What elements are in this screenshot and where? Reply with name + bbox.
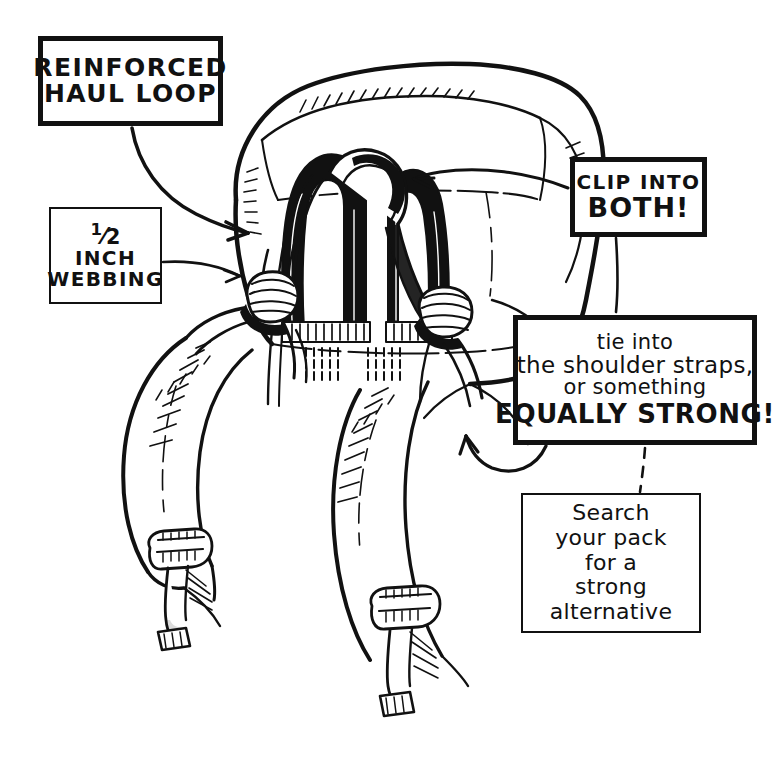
callout-half-inch-webbing: 1⁄2 INCH WEBBING xyxy=(49,207,162,304)
webbing-arrow xyxy=(163,262,240,282)
callout-line: Search xyxy=(572,501,649,526)
dashed-link xyxy=(640,448,645,492)
callout-line-emphasis: BOTH! xyxy=(588,194,690,222)
callout-line: HAUL LOOP xyxy=(44,81,217,107)
callout-line: or something xyxy=(564,377,707,399)
callout-line: INCH xyxy=(75,248,136,269)
callout-line: REINFORCED xyxy=(33,55,227,81)
callout-line: WEBBING xyxy=(47,269,164,290)
callout-line-fraction: 1⁄2 xyxy=(91,221,121,249)
callout-clip-into-both: CLIP INTO BOTH! xyxy=(570,157,707,237)
callout-line: CLIP INTO xyxy=(577,172,701,193)
callout-search-your-pack: Search your pack for a strong alternativ… xyxy=(521,493,701,633)
diagram-canvas: REINFORCED HAUL LOOP 1⁄2 INCH WEBBING CL… xyxy=(0,0,783,765)
callout-reinforced-haul-loop: REINFORCED HAUL LOOP xyxy=(38,36,223,126)
callout-line: alternative xyxy=(550,600,672,625)
callout-line: your pack xyxy=(555,526,666,551)
callout-line-emphasis: EQUALLY STRONG! xyxy=(495,401,775,428)
callout-tie-into-shoulder-straps: tie into the shoulder straps, or somethi… xyxy=(513,315,757,445)
callout-line: for a xyxy=(585,551,637,576)
callout-line: tie into xyxy=(597,332,673,354)
callout-line: the shoulder straps, xyxy=(517,354,754,378)
callout-line: strong xyxy=(575,575,647,600)
